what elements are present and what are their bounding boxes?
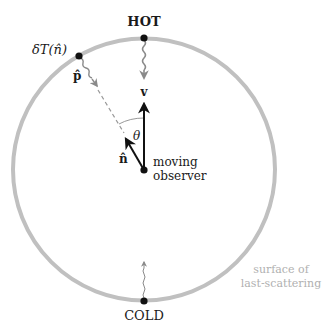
surface-label-line2: last-scattering: [241, 277, 321, 290]
n-hat-label: n̂: [119, 152, 128, 166]
theta-label: θ: [133, 129, 141, 143]
delta-t-label: δT(n̂): [32, 42, 67, 57]
observer-label-line1: moving: [153, 155, 198, 169]
line-of-sight-dashed: [98, 90, 124, 133]
delta-t-point: [75, 52, 82, 59]
theta-angle-arc: [119, 118, 144, 124]
hot-photon-wave-icon: [143, 40, 146, 70]
observer-point: [140, 166, 147, 173]
n-hat-arrow-icon: [126, 139, 144, 170]
p-photon-arrow-icon: [92, 79, 97, 86]
cold-label: COLD: [124, 308, 164, 323]
surface-label-line1: surface of: [253, 263, 309, 276]
observer-label-line2: observer: [153, 169, 207, 183]
hot-label: HOT: [127, 14, 161, 29]
v-label: v: [140, 85, 149, 99]
p-photon-wave-icon: [80, 58, 92, 78]
cold-photon-wave-icon: [143, 268, 145, 298]
cold-point: [140, 297, 147, 304]
cmb-dipole-diagram: HOT COLD δT(n̂) p̂ v n̂ θ moving observe…: [0, 0, 333, 334]
p-hat-label: p̂: [73, 69, 81, 83]
hot-point: [140, 34, 147, 41]
